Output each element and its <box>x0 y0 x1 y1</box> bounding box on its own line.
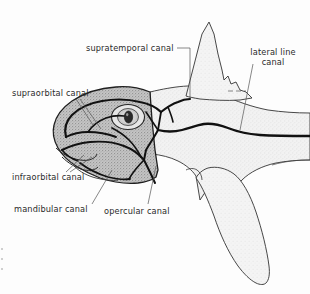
label-supraorbital-canal: supraorbital canal <box>12 89 89 99</box>
pectoral-fin <box>196 167 269 284</box>
scan-artifact <box>1 268 3 270</box>
label-lateral-line-canal: lateral linecanal <box>245 48 301 67</box>
scan-artifact <box>1 248 3 250</box>
label-mandibular-canal: mandibular canal <box>14 205 88 215</box>
label-lateral-line-canal-line1: lateral line <box>250 47 295 57</box>
dorsal-fin <box>186 22 252 100</box>
label-supratemporal-canal: supratemporal canal <box>86 44 174 54</box>
label-infraorbital-canal: infraorbital canal <box>12 173 84 183</box>
label-lateral-line-canal-line2: canal <box>262 57 285 67</box>
eye-highlight <box>126 113 128 116</box>
scan-artifact <box>1 258 3 260</box>
label-opercular-canal: opercular canal <box>104 207 170 217</box>
eye-pupil <box>124 111 132 123</box>
eye <box>112 105 145 130</box>
